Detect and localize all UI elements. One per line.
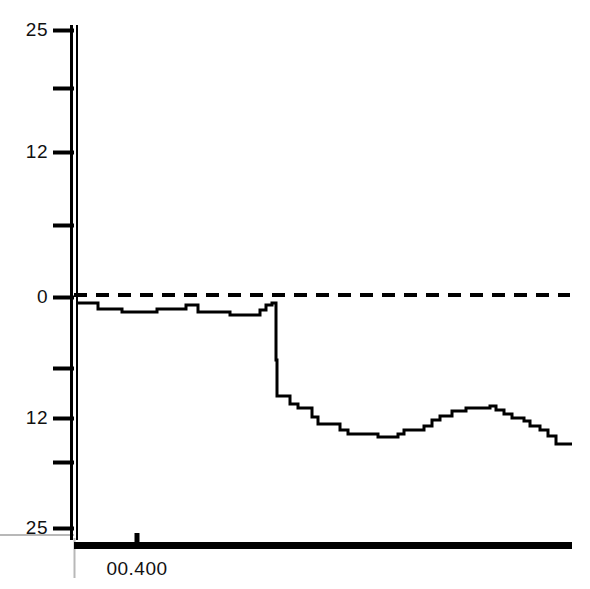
data-series-signal [76,303,572,444]
y-tick-label: 0 [2,286,48,308]
chart-canvas: 251201225 00.400 [0,0,590,589]
x-axis [74,533,572,546]
y-tick-label: 25 [2,517,48,539]
y-tick-label: 12 [2,141,48,163]
plot-area [0,0,590,589]
x-tick-label: 00.400 [77,558,197,580]
y-tick-label: 12 [2,407,48,429]
y-tick-label: 25 [2,19,48,41]
